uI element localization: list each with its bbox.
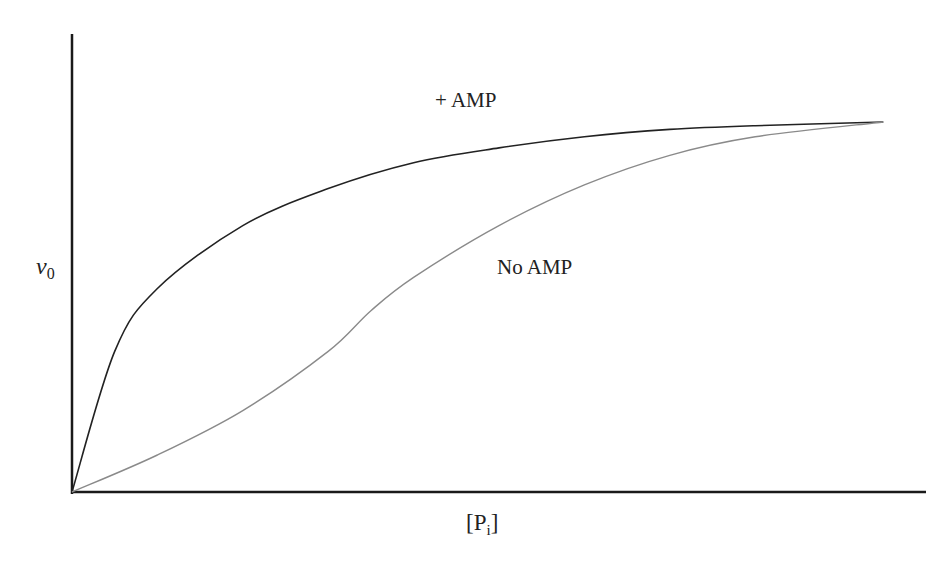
amp-curve-label: + AMP <box>435 88 496 113</box>
y-axis-label-subscript: 0 <box>47 265 55 282</box>
no-amp-curve-label: No AMP <box>497 255 572 280</box>
y-axis-label: v0 <box>36 253 55 283</box>
y-axis-label-main: v <box>36 253 47 279</box>
x-axis-label: [Pi] <box>466 510 498 539</box>
no-amp-curve <box>72 122 883 492</box>
chart-canvas <box>0 0 948 565</box>
x-axis-label-subscript: i <box>486 522 490 538</box>
x-axis-label-main: P <box>474 510 487 535</box>
